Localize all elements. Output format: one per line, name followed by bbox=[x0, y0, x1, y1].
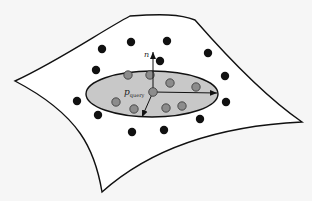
outer-point bbox=[222, 98, 230, 106]
inner-point bbox=[130, 105, 138, 113]
outer-point bbox=[163, 37, 171, 45]
outer-point bbox=[98, 45, 106, 53]
surface-neighborhood-diagram: n pquery bbox=[0, 0, 312, 201]
query-point bbox=[149, 88, 158, 97]
outer-point bbox=[92, 66, 100, 74]
outer-point bbox=[127, 38, 135, 46]
outer-point bbox=[160, 126, 168, 134]
outer-point bbox=[196, 115, 204, 123]
outer-point bbox=[128, 128, 136, 136]
query-label-subscript: query bbox=[130, 92, 145, 99]
inner-point bbox=[112, 98, 120, 106]
outer-point bbox=[156, 57, 164, 65]
inner-point bbox=[192, 83, 200, 91]
outer-point bbox=[73, 97, 81, 105]
inner-point bbox=[178, 102, 186, 110]
outer-point bbox=[204, 49, 212, 57]
outer-point bbox=[94, 111, 102, 119]
inner-point bbox=[166, 79, 174, 87]
inner-point bbox=[162, 104, 170, 112]
inner-point bbox=[124, 71, 132, 79]
normal-label: n bbox=[144, 50, 149, 59]
outer-point bbox=[221, 72, 229, 80]
